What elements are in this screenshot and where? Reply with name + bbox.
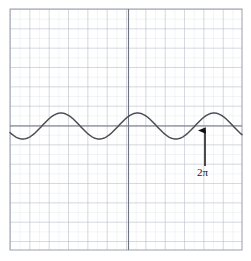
plot-canvas xyxy=(0,0,251,261)
two-pi-label: 2π xyxy=(197,166,208,178)
grid-group xyxy=(10,9,242,250)
sine-wave-figure: 2π xyxy=(0,0,251,261)
major-gridlines xyxy=(10,9,242,250)
